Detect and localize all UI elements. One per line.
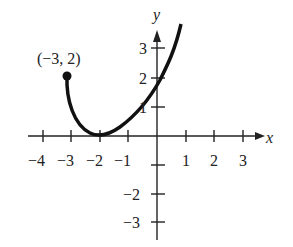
svg-text:−3: −3 bbox=[57, 152, 74, 169]
curve bbox=[67, 24, 181, 135]
svg-text:−3: −3 bbox=[123, 214, 140, 231]
svg-text:2: 2 bbox=[139, 70, 147, 87]
x-arrow-icon bbox=[255, 132, 265, 140]
svg-text:3: 3 bbox=[239, 152, 247, 169]
svg-text:−1: −1 bbox=[114, 152, 131, 169]
y-arrow-icon bbox=[153, 30, 161, 42]
svg-text:2: 2 bbox=[210, 152, 218, 169]
endpoint-dot bbox=[63, 72, 72, 81]
x-label: x bbox=[265, 129, 273, 146]
svg-text:−4: −4 bbox=[28, 152, 45, 169]
x-tick-labels: −4 −3 −2 −1 1 2 3 bbox=[28, 152, 247, 169]
svg-text:−2: −2 bbox=[86, 152, 103, 169]
svg-text:−2: −2 bbox=[123, 186, 140, 203]
y-label: y bbox=[151, 6, 161, 24]
point-label: (−3, 2) bbox=[37, 50, 81, 68]
svg-text:3: 3 bbox=[139, 40, 147, 57]
svg-text:1: 1 bbox=[139, 99, 147, 116]
svg-text:1: 1 bbox=[182, 152, 190, 169]
graph: (−3, 2) x y −4 −3 −2 −1 1 2 3 3 2 1 −2 −… bbox=[0, 0, 293, 247]
